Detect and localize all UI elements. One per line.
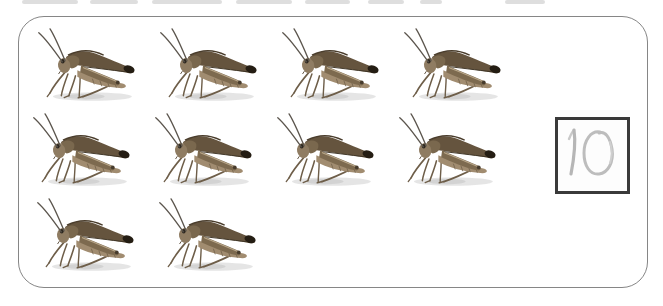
grasshopper-image [273,112,386,191]
artifact-fragment [305,0,350,4]
answer-box[interactable] [555,117,630,194]
grasshopper-image [395,112,508,191]
grasshopper-image [155,197,268,276]
grasshopper-image [156,27,269,106]
grasshopper-row-1 [34,27,513,106]
grasshopper-image [34,27,147,106]
page: { "exercise": { "type": "counting-worksh… [0,0,663,306]
cropped-text-artifact [0,0,663,10]
grasshopper-image [29,112,142,191]
grasshopper-image [278,27,391,106]
artifact-fragment [152,0,222,4]
worksheet-frame [18,16,648,288]
artifact-fragment [22,0,78,4]
grasshopper-row-3 [33,197,268,276]
artifact-fragment [236,0,292,4]
grasshopper-image [400,27,513,106]
artifact-fragment [505,0,545,4]
artifact-fragment [368,0,404,4]
grasshopper-row-2 [29,112,508,191]
grasshopper-image [151,112,264,191]
handwritten-answer [558,120,627,191]
grasshopper-image [33,197,146,276]
artifact-fragment [90,0,138,4]
artifact-fragment [420,0,442,4]
